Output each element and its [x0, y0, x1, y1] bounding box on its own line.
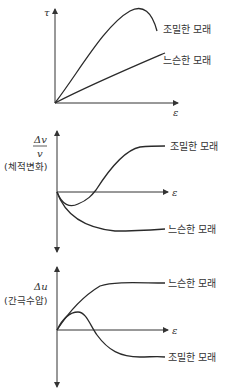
epsilon-axis-label: ε	[172, 187, 177, 198]
delta-u-label: Δu	[33, 281, 48, 292]
loose-sand-label: 느슨한 모래	[168, 278, 216, 289]
dense-sand-label: 조밀한 모래	[163, 24, 211, 35]
delta-v-label: Δv	[33, 134, 47, 145]
sand-behavior-diagram: τ ε 조밀한 모래 느슨한 모래 Δv v (체적변화) ε 조밀한 모래 느…	[0, 0, 230, 388]
volume-change-desc: (체적변화)	[4, 161, 47, 172]
shear-stress-panel: τ ε 조밀한 모래 느슨한 모래	[44, 7, 211, 118]
loose-sand-label: 느슨한 모래	[163, 55, 211, 66]
loose-sand-label: 느슨한 모래	[168, 224, 216, 235]
dense-sand-label: 조밀한 모래	[168, 352, 216, 363]
dense-sand-curve	[57, 312, 165, 357]
epsilon-axis-label: ε	[173, 107, 178, 118]
dense-sand-curve	[57, 146, 165, 206]
pore-pressure-desc: (간극수압)	[4, 295, 47, 306]
pore-pressure-panel: Δu (간극수압) ε 느슨한 모래 조밀한 모래	[4, 267, 216, 387]
v-label: v	[37, 148, 43, 159]
loose-sand-curve	[57, 192, 165, 231]
dense-sand-label: 조밀한 모래	[170, 141, 218, 152]
tau-axis-label: τ	[44, 7, 50, 18]
loose-sand-curve	[57, 283, 165, 330]
dense-sand-curve	[55, 8, 157, 103]
epsilon-axis-label: ε	[172, 325, 177, 336]
volume-change-panel: Δv v (체적변화) ε 조밀한 모래 느슨한 모래	[4, 131, 218, 252]
loose-sand-curve	[55, 53, 165, 103]
